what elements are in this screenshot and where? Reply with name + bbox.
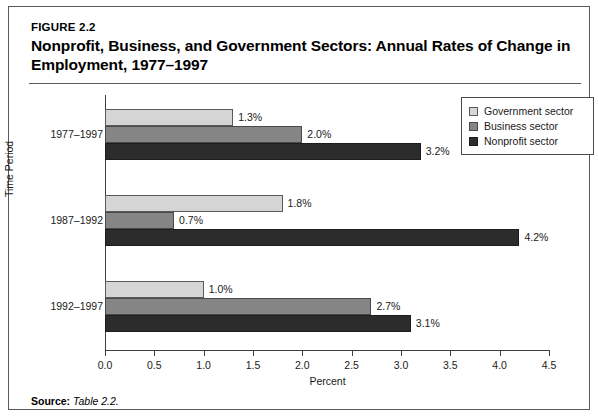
legend-item-business: Business sector: [469, 119, 587, 133]
legend-swatch-nonprofit-icon: [469, 137, 478, 146]
x-tick-mark: [549, 351, 550, 356]
source-label: Source:: [31, 395, 70, 407]
x-tick-mark: [105, 351, 106, 356]
y-category-label-wrap: 1992–1997: [13, 300, 103, 314]
bar-value-label: 1.0%: [209, 281, 233, 298]
x-tick-mark: [450, 351, 451, 356]
bar-bus-2: [105, 298, 371, 315]
legend-label-government: Government sector: [484, 105, 573, 117]
header-divider: [29, 83, 581, 84]
y-category-label: 1987–1992: [50, 214, 103, 226]
bar-value-label: 1.3%: [238, 109, 262, 126]
bar-value-label: 2.7%: [376, 298, 400, 315]
legend-swatch-business-icon: [469, 122, 478, 131]
x-tick-label: 3.5: [443, 359, 458, 371]
bar-gov-0: [105, 109, 233, 126]
y-axis-title: Time Period: [3, 141, 15, 197]
bar-value-label: 3.1%: [416, 315, 440, 332]
y-category-label-wrap: 1987–1992: [13, 214, 103, 228]
x-tick-mark: [253, 351, 254, 356]
bar-value-label: 0.7%: [179, 212, 203, 229]
x-tick-mark: [154, 351, 155, 356]
bar-value-label: 4.2%: [524, 229, 548, 246]
x-tick-label: 4.0: [492, 359, 507, 371]
legend-swatch-government-icon: [469, 107, 478, 116]
bar-value-label: 1.8%: [288, 195, 312, 212]
x-tick-label: 3.0: [394, 359, 409, 371]
y-category-label: 1992–1997: [50, 300, 103, 312]
x-axis-title: Percent: [105, 375, 550, 387]
y-category-label: 1977–1997: [50, 128, 103, 140]
x-tick-mark: [352, 351, 353, 356]
bar-np-2: [105, 315, 411, 332]
source-note: Source: Table 2.2.: [31, 395, 119, 407]
bar-bus-0: [105, 126, 302, 143]
legend-item-nonprofit: Nonprofit sector: [469, 134, 587, 148]
x-tick-label: 1.0: [196, 359, 211, 371]
figure-title: Nonprofit, Business, and Government Sect…: [31, 36, 579, 74]
bar-gov-2: [105, 281, 204, 298]
figure-number: FIGURE 2.2: [31, 21, 96, 33]
bar-np-1: [105, 229, 519, 246]
x-tick-label: 0.5: [147, 359, 162, 371]
x-tick-label: 0.0: [98, 359, 113, 371]
y-category-label-wrap: 1977–1997: [13, 128, 103, 142]
chart-legend: Government sector Business sector Nonpro…: [461, 97, 594, 155]
x-tick-label: 1.5: [246, 359, 261, 371]
legend-item-government: Government sector: [469, 104, 587, 118]
figure-container: FIGURE 2.2 Nonprofit, Business, and Gove…: [0, 0, 598, 416]
x-tick-mark: [302, 351, 303, 356]
bar-value-label: 3.2%: [426, 143, 450, 160]
legend-label-business: Business sector: [484, 120, 558, 132]
legend-label-nonprofit: Nonprofit sector: [484, 135, 558, 147]
figure-frame: FIGURE 2.2 Nonprofit, Business, and Gove…: [8, 6, 590, 410]
bar-value-label: 2.0%: [307, 126, 331, 143]
x-tick-label: 2.0: [295, 359, 310, 371]
x-tick-label: 2.5: [344, 359, 359, 371]
source-value: Table 2.2.: [73, 395, 119, 407]
x-axis-line: [105, 350, 550, 351]
x-tick-mark: [204, 351, 205, 356]
bar-np-0: [105, 143, 421, 160]
bar-gov-1: [105, 195, 283, 212]
x-tick-label: 4.5: [542, 359, 557, 371]
x-tick-mark: [401, 351, 402, 356]
x-tick-mark: [500, 351, 501, 356]
bar-bus-1: [105, 212, 174, 229]
